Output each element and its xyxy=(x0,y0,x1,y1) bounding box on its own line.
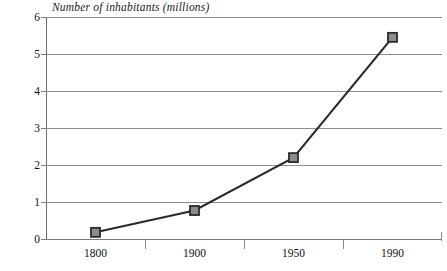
y-tick-label-4: 4 xyxy=(6,85,40,97)
data-point-1990 xyxy=(388,33,397,42)
y-tick-label-5: 5 xyxy=(6,48,40,60)
data-point-1950 xyxy=(289,153,298,162)
x-tick-label-1950: 1950 xyxy=(282,247,305,259)
y-tick-label-3: 3 xyxy=(6,122,40,134)
chart-figure: Number of inhabitants (millions) 0123456… xyxy=(0,0,447,271)
y-tick-label-1: 1 xyxy=(6,196,40,208)
plot-area xyxy=(46,17,442,239)
series-line xyxy=(96,37,393,232)
x-tick-label-1990: 1990 xyxy=(381,247,404,259)
y-tick-label-6: 6 xyxy=(6,11,40,23)
data-point-1800 xyxy=(91,228,100,237)
x-axis-end-tick xyxy=(441,232,442,241)
y-axis-tick-labels: 0123456 xyxy=(0,17,40,239)
chart-title: Number of inhabitants (millions) xyxy=(52,1,210,13)
y-tick-label-0: 0 xyxy=(6,233,40,245)
x-tick-label-1800: 1800 xyxy=(84,247,107,259)
series-plot xyxy=(46,17,442,239)
x-tick-label-1900: 1900 xyxy=(183,247,206,259)
data-point-1900 xyxy=(190,206,199,215)
x-axis-tick-labels: 1800190019501990 xyxy=(46,247,442,265)
y-tick-label-2: 2 xyxy=(6,159,40,171)
